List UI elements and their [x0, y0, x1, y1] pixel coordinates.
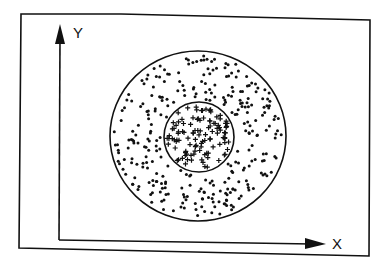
scatter-dot	[207, 196, 210, 199]
scatter-dot	[148, 181, 151, 184]
scatter-dot	[248, 132, 251, 135]
scatter-dot	[131, 183, 134, 186]
x-axis-arrow-icon	[305, 238, 326, 249]
plus-marker	[199, 108, 204, 113]
scatter-dot	[160, 182, 163, 185]
plus-marker	[185, 105, 190, 110]
scatter-dot	[261, 97, 264, 100]
scatter-dot	[161, 187, 164, 190]
scatter-dot	[218, 213, 221, 216]
scatter-dot	[181, 202, 184, 205]
scatter-dot	[192, 86, 195, 89]
scatter-dot	[263, 111, 266, 114]
scatter-dot	[265, 152, 268, 155]
scatter-dot	[224, 192, 227, 195]
scatter-dot	[206, 58, 209, 61]
scatter-dot	[211, 180, 214, 183]
scatter-dot	[254, 119, 257, 122]
scatter-dot	[150, 201, 153, 204]
scatter-dot	[251, 129, 254, 132]
scatter-dot	[273, 155, 276, 158]
scatter-dot	[263, 88, 266, 91]
scatter-dot	[231, 171, 234, 174]
scatter-dot	[202, 59, 205, 62]
scatter-dot	[229, 164, 232, 167]
scatter-dot	[164, 186, 167, 189]
scatter-dot	[265, 129, 268, 132]
scatter-dot	[189, 184, 192, 187]
scatter-dot	[219, 189, 222, 192]
scatter-dot	[135, 163, 138, 166]
scatter-dot	[256, 86, 259, 89]
scatter-dot	[114, 144, 117, 147]
scatter-dot	[227, 177, 230, 180]
scatter-dot	[198, 190, 201, 193]
scatter-dot	[245, 75, 248, 78]
scatter-dot	[246, 183, 249, 186]
plus-marker	[194, 105, 199, 110]
scatter-dot	[142, 162, 145, 165]
scatter-dot	[137, 188, 140, 191]
scatter-dot	[243, 166, 246, 169]
plus-marker	[195, 128, 200, 133]
plus-marker	[186, 136, 191, 141]
scatter-dot	[194, 95, 197, 98]
scatter-dot	[130, 99, 133, 102]
scatter-dot	[172, 101, 175, 104]
scatter-dot	[204, 82, 207, 85]
scatter-dot	[143, 145, 146, 148]
plus-marker	[203, 132, 208, 137]
plus-marker	[223, 152, 228, 157]
scatter-dot	[263, 159, 266, 162]
scatter-dot	[213, 84, 216, 87]
scatter-dot	[152, 85, 155, 88]
scatter-dot	[132, 139, 135, 142]
plus-marker	[193, 149, 198, 154]
scatter-dot	[250, 82, 253, 85]
y-axis: Y	[55, 24, 83, 240]
scatter-dot	[224, 62, 227, 65]
scatter-dot	[266, 98, 269, 101]
scatter-dot	[230, 95, 233, 98]
scatter-dot	[147, 113, 150, 116]
scatter-dot	[246, 101, 249, 104]
scatter-dot	[155, 144, 158, 147]
scatter-dot	[231, 111, 234, 114]
scatter-dot	[187, 62, 190, 65]
scatter-dot	[215, 67, 218, 70]
scatter-dot	[163, 68, 166, 71]
scatter-dot	[267, 106, 270, 109]
scatter-dot	[225, 199, 228, 202]
scatter-dot	[120, 119, 123, 122]
scatter-dot	[234, 63, 237, 66]
scatter-dot	[213, 96, 216, 99]
scatter-dot	[160, 156, 163, 159]
scatter-dot	[205, 98, 208, 101]
scatter-dot	[176, 89, 179, 92]
scatter-dot	[261, 114, 264, 117]
scatter-dot	[202, 73, 205, 76]
plus-marker	[210, 129, 215, 134]
scatter-dot	[131, 130, 134, 133]
scatter-dot	[247, 97, 250, 100]
scatter-dot	[147, 117, 150, 120]
scatter-dot	[178, 80, 181, 83]
scatter-dot	[234, 189, 237, 192]
scatter-dot	[185, 173, 188, 176]
scatter-dot	[250, 159, 253, 162]
scatter-dot	[207, 67, 210, 70]
plus-marker	[215, 131, 220, 136]
scatter-dot	[141, 165, 144, 168]
scatter-dot	[159, 190, 162, 193]
scatter-dot	[229, 191, 232, 194]
scatter-dot	[243, 122, 246, 125]
scatter-dot	[250, 103, 253, 106]
scatter-dot	[150, 94, 153, 97]
scatter-dot	[163, 198, 166, 201]
scatter-dot	[268, 100, 271, 103]
scatter-dot	[183, 94, 186, 97]
scatter-dot	[208, 88, 211, 91]
scatter-dot	[237, 180, 240, 183]
scatter-dot	[201, 198, 204, 201]
outer-dot-cluster	[113, 54, 283, 217]
